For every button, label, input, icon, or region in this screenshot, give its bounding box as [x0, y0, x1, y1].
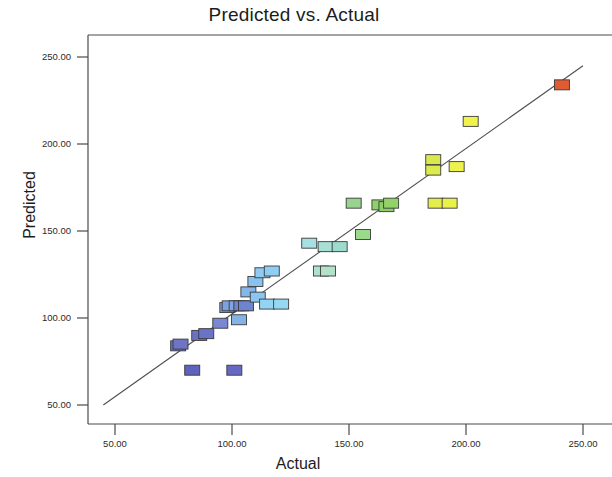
- data-point: [449, 162, 464, 172]
- plot-canvas: [0, 0, 612, 477]
- data-point: [426, 165, 441, 175]
- data-point: [356, 229, 371, 239]
- y-tick-label: 250.00: [0, 51, 71, 62]
- data-point: [332, 242, 347, 252]
- x-tick-label: 100.00: [192, 438, 272, 449]
- data-point: [442, 198, 457, 208]
- data-points: [171, 80, 570, 375]
- data-point: [463, 116, 478, 126]
- data-point: [260, 299, 275, 309]
- data-point: [199, 329, 214, 339]
- y-tick-label: 200.00: [0, 138, 71, 149]
- data-point: [227, 365, 242, 375]
- x-tick-label: 150.00: [309, 438, 389, 449]
- x-tick-label: 200.00: [426, 438, 506, 449]
- data-point: [213, 318, 228, 328]
- data-point: [302, 238, 317, 248]
- data-point: [274, 299, 289, 309]
- data-point: [185, 365, 200, 375]
- data-point: [554, 80, 569, 90]
- data-point: [346, 198, 361, 208]
- data-point: [232, 315, 247, 325]
- data-point: [426, 155, 441, 165]
- data-point: [264, 266, 279, 276]
- data-point: [173, 339, 188, 349]
- data-point: [318, 242, 333, 252]
- reference-line: [103, 66, 583, 405]
- data-point: [384, 198, 399, 208]
- y-tick-label: 100.00: [0, 312, 71, 323]
- data-point: [320, 266, 335, 276]
- plot-frame: [88, 35, 612, 424]
- y-tick-label: 50.00: [0, 399, 71, 410]
- x-tick-label: 50.00: [75, 438, 155, 449]
- x-tick-label: 250.00: [543, 438, 612, 449]
- chart-container: Predicted vs. Actual Predicted Actual 25…: [0, 0, 612, 477]
- y-tick-label: 150.00: [0, 225, 71, 236]
- data-point: [428, 198, 443, 208]
